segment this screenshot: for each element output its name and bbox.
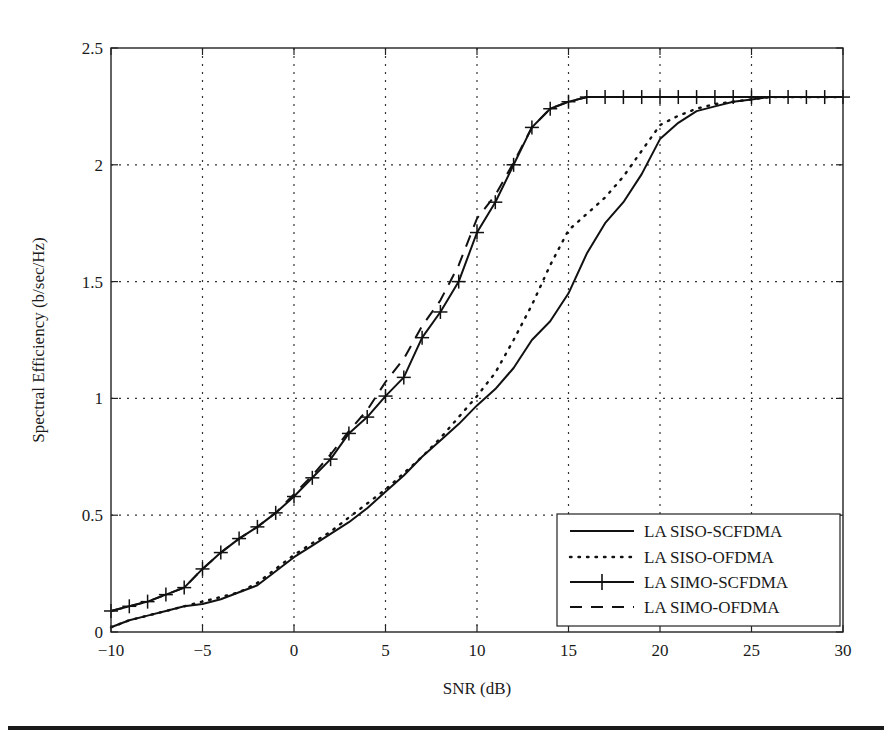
y-tick-label: 2 [95, 156, 104, 175]
y-tick-label: 2.5 [82, 39, 103, 58]
x-tick-label: 25 [743, 641, 760, 660]
x-tick-label: −10 [98, 641, 125, 660]
x-tick-label: 5 [381, 641, 390, 660]
x-tick-label: 15 [560, 641, 577, 660]
legend-label: LA SIMO-SCFDMA [644, 573, 789, 592]
line-chart: −10−5051015202530 00.511.522.5 SNR (dB) … [0, 0, 892, 748]
x-tick-label: 30 [835, 641, 852, 660]
legend-label: LA SISO-SCFDMA [644, 522, 783, 541]
x-tick-label: 10 [469, 641, 486, 660]
x-tick-labels: −10−5051015202530 [98, 641, 852, 660]
y-tick-labels: 00.511.522.5 [82, 39, 103, 642]
x-tick-label: 0 [290, 641, 299, 660]
y-tick-label: 0 [95, 623, 104, 642]
legend: LA SISO-SCFDMA LA SISO-OFDMA LA SIMO-SCF… [557, 514, 840, 626]
x-axis-label: SNR (dB) [443, 679, 511, 698]
x-tick-label: −5 [193, 641, 211, 660]
page-divider-rule [8, 726, 884, 730]
y-tick-label: 1 [95, 389, 104, 408]
y-tick-label: 1.5 [82, 273, 103, 292]
legend-label: LA SISO-OFDMA [644, 548, 775, 567]
legend-label: LA SIMO-OFDMA [644, 598, 780, 617]
x-tick-label: 20 [652, 641, 669, 660]
y-tick-label: 0.5 [82, 506, 103, 525]
y-axis-label: Spectral Efficiency (b/sec/Hz) [29, 237, 48, 442]
